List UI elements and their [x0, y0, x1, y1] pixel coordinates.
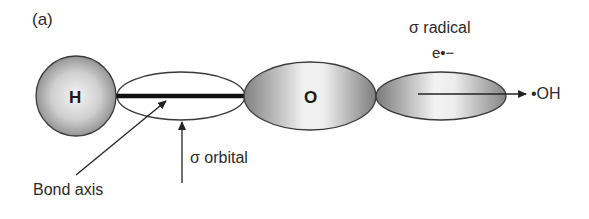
panel-label: (a)	[32, 11, 53, 28]
oxygen-label: O	[304, 89, 317, 106]
bond-axis-label: Bond axis	[33, 182, 103, 198]
hydroxyl-radical-label: •OH	[531, 86, 561, 102]
sigma-orbital-label: σ orbital	[190, 150, 248, 166]
electron-label: e•−	[432, 45, 454, 60]
sigma-radical-label: σ radical	[409, 20, 470, 36]
hydrogen-label: H	[69, 89, 81, 106]
sigma-radical-lobe	[376, 72, 506, 120]
